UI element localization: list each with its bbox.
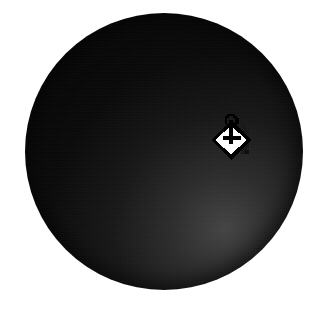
image-canvas [0,0,331,309]
bucket-crosshair-vertical [229,132,233,144]
paint-bucket-icon [207,114,255,164]
paint-bucket-cursor[interactable] [207,114,255,164]
bucket-notch [245,150,249,154]
dark-sphere [25,13,303,290]
